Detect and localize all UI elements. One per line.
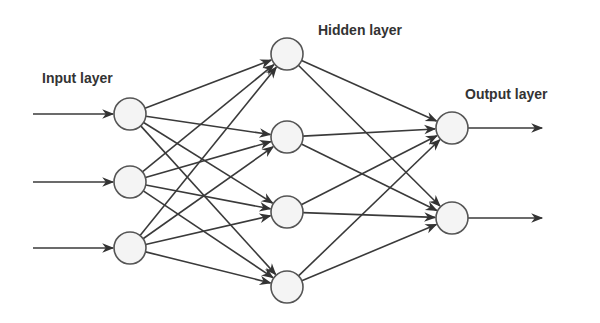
output-neuron [436, 202, 468, 234]
hidden-layer-label: Hidden layer [318, 22, 402, 38]
hidden-output-edge [301, 144, 436, 210]
neural-network-diagram: Input layer Hidden layer Output layer [0, 0, 600, 323]
input-hidden-edge [143, 191, 273, 278]
input-hidden-edge [141, 126, 276, 275]
input-hidden-edge [145, 142, 270, 178]
input-neuron [114, 98, 146, 130]
hidden-neuron [271, 271, 303, 303]
output-layer-label: Output layer [465, 86, 547, 102]
input-hidden-edge [144, 122, 273, 203]
input-hidden-edge [146, 216, 271, 245]
hidden-output-edge [302, 61, 437, 121]
hidden-output-edge [299, 140, 440, 276]
input-neuron [114, 166, 146, 198]
input-layer-label: Input layer [42, 70, 113, 86]
output-neuron [436, 112, 468, 144]
hidden-output-edge [303, 213, 435, 218]
hidden-neuron [271, 121, 303, 153]
input-hidden-edge [145, 60, 271, 108]
hidden-neuron [271, 38, 303, 70]
input-hidden-edge [146, 252, 271, 283]
input-hidden-edge [143, 147, 273, 239]
network-graph [0, 0, 600, 323]
input-neuron [114, 232, 146, 264]
hidden-neuron [271, 196, 303, 228]
input-hidden-edge [140, 67, 276, 235]
hidden-output-edge [301, 136, 437, 205]
neurons [114, 38, 468, 303]
